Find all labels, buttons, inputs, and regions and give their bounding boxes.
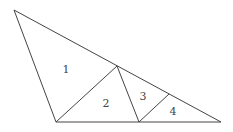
triangle-diagram: 1 2 3 4 <box>0 0 233 132</box>
region-label-4: 4 <box>170 105 177 118</box>
region-label-1: 1 <box>63 63 70 76</box>
region-label-3: 3 <box>140 90 147 103</box>
edge-left <box>14 10 56 122</box>
edge-divider-2-3 <box>117 66 139 122</box>
region-label-2: 2 <box>103 97 110 110</box>
